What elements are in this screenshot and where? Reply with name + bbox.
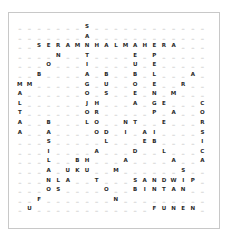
letter-cell: H [140, 41, 150, 51]
blank-cell: _ [101, 22, 111, 32]
letter-cell: A [169, 41, 179, 51]
blank-cell: _ [188, 108, 198, 118]
blank-cell: _ [15, 22, 25, 32]
blank-cell: _ [101, 176, 111, 186]
letter-cell: L [111, 41, 121, 51]
blank-cell: _ [25, 166, 35, 176]
blank-cell: _ [34, 166, 44, 176]
letter-cell: N [82, 41, 92, 51]
blank-cell: _ [121, 22, 131, 32]
letter-cell: S [34, 41, 44, 51]
blank-cell: _ [53, 147, 63, 157]
blank-cell: _ [140, 51, 150, 61]
letter-cell: S [82, 22, 92, 32]
letter-cell: A [140, 176, 150, 186]
blank-cell: _ [44, 51, 54, 61]
letter-cell: A [130, 99, 140, 109]
letter-cell: L [82, 118, 92, 128]
blank-cell: _ [140, 60, 150, 70]
letter-cell: K [73, 166, 83, 176]
blank-cell: _ [63, 80, 73, 90]
blank-cell: _ [15, 51, 25, 61]
blank-cell: _ [53, 70, 63, 80]
blank-cell: _ [130, 195, 140, 205]
grid-row: ___NLA__T___SANDWIP_ [15, 176, 207, 186]
letter-cell: A [15, 128, 25, 138]
blank-cell: _ [63, 51, 73, 61]
blank-cell: _ [15, 147, 25, 157]
blank-cell: _ [140, 22, 150, 32]
blank-cell: _ [73, 70, 83, 80]
letter-cell: N [111, 195, 121, 205]
letter-cell: M [121, 41, 131, 51]
blank-cell: _ [159, 195, 169, 205]
blank-cell: _ [188, 195, 198, 205]
blank-cell: _ [178, 118, 188, 128]
blank-cell: _ [25, 32, 35, 42]
blank-cell: _ [198, 80, 208, 90]
letter-cell: I [150, 128, 160, 138]
blank-cell: _ [92, 185, 102, 195]
blank-cell: _ [111, 70, 121, 80]
blank-cell: _ [25, 147, 35, 157]
blank-cell: _ [34, 147, 44, 157]
blank-cell: _ [198, 32, 208, 42]
blank-cell: _ [63, 89, 73, 99]
blank-cell: _ [92, 32, 102, 42]
blank-cell: _ [169, 118, 179, 128]
letter-cell: O [92, 128, 102, 138]
blank-cell: _ [178, 22, 188, 32]
letter-cell: P [150, 108, 160, 118]
blank-cell: _ [111, 176, 121, 186]
grid-row: ___L__BH___A____A__A [15, 156, 207, 166]
blank-cell: _ [140, 118, 150, 128]
letter-cell: A [198, 156, 208, 166]
letter-cell: A [92, 147, 102, 157]
letter-cell: D [130, 147, 140, 157]
blank-cell: _ [111, 51, 121, 61]
letter-cell: E [44, 41, 54, 51]
blank-cell: _ [44, 195, 54, 205]
blank-cell: _ [25, 99, 35, 109]
letter-cell: U [63, 166, 73, 176]
letter-cell: B [130, 70, 140, 80]
blank-cell: _ [73, 204, 83, 214]
grid-row: ____N__T____E_P_____ [15, 51, 207, 61]
letter-cell: B [44, 118, 54, 128]
blank-cell: _ [188, 137, 198, 147]
letter-cell: N [188, 204, 198, 214]
blank-cell: _ [73, 60, 83, 70]
letter-cell: L [44, 156, 54, 166]
letter-cell: I [44, 147, 54, 157]
blank-cell: _ [111, 128, 121, 138]
blank-cell: _ [169, 70, 179, 80]
grid-row: A__A____OD_I_AI____S [15, 128, 207, 138]
blank-cell: _ [188, 147, 198, 157]
blank-cell: _ [25, 118, 35, 128]
letter-cell: B [130, 185, 140, 195]
letter-cell: M [25, 80, 35, 90]
blank-cell: _ [44, 22, 54, 32]
blank-cell: _ [188, 22, 198, 32]
letter-cell: F [34, 195, 44, 205]
blank-cell: _ [140, 166, 150, 176]
letter-cell: F [150, 204, 160, 214]
blank-cell: _ [121, 99, 131, 109]
blank-cell: _ [73, 147, 83, 157]
grid-row: T______OR_____P_A__O [15, 108, 207, 118]
letter-cell: A [82, 70, 92, 80]
blank-cell: _ [198, 185, 208, 195]
blank-cell: _ [34, 60, 44, 70]
blank-cell: _ [130, 166, 140, 176]
blank-cell: _ [44, 32, 54, 42]
blank-cell: _ [25, 70, 35, 80]
letter-cell: B [101, 70, 111, 80]
letter-cell: O [82, 89, 92, 99]
letter-cell: O [92, 118, 102, 128]
blank-cell: _ [53, 166, 63, 176]
blank-cell: _ [198, 204, 208, 214]
letter-cell: T [82, 51, 92, 61]
letter-cell: R [198, 118, 208, 128]
blank-cell: _ [73, 80, 83, 90]
blank-cell: _ [111, 156, 121, 166]
